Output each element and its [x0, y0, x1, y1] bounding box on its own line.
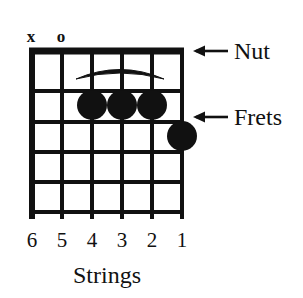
string-number-3: 3 [110, 230, 134, 251]
string-number-4: 4 [80, 230, 104, 251]
nut-callout-arrow-icon [193, 46, 228, 57]
frets-callout-arrow-icon [193, 112, 228, 123]
string-number-2: 2 [140, 230, 164, 251]
finger-dot-string-3-fret-2 [107, 90, 137, 120]
string-number-5: 5 [50, 230, 74, 251]
nut-callout-label: Nut [234, 39, 270, 63]
strings-caption: Strings [32, 263, 182, 287]
guitar-chord-diagram: x o [0, 0, 303, 298]
frets-callout-label: Frets [234, 105, 282, 129]
finger-dot-string-1-fret-3 [167, 121, 197, 151]
finger-dot-string-2-fret-2 [137, 90, 167, 120]
string-lines [32, 51, 182, 219]
string-number-6: 6 [20, 230, 44, 251]
string-number-1: 1 [170, 230, 194, 251]
finger-dot-string-4-fret-2 [77, 90, 107, 120]
